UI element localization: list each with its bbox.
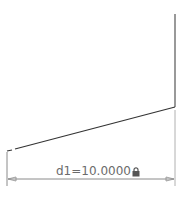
lock-icon <box>132 166 140 176</box>
sloped-line-stub[interactable] <box>7 150 12 151</box>
sloped-line[interactable] <box>15 107 175 149</box>
dimension-text: d1=10.0000 <box>56 164 131 178</box>
dimension-label[interactable]: d1=10.0000 <box>56 164 140 178</box>
